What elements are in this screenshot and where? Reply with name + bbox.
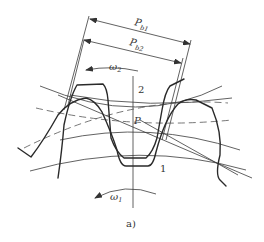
label-gear-1: 1 [160, 163, 166, 174]
gear-mesh-diagram: Pb1 Pb2 ω2 2 P 1 ω1 a) [0, 0, 264, 242]
extension-line-right-outer [166, 40, 191, 140]
label-gear-2: 2 [138, 84, 144, 95]
figure-caption: a) [126, 218, 136, 229]
label-pb1: Pb1 [132, 16, 151, 33]
pitch-circle-gear1 [24, 102, 228, 148]
omega1-arrow [95, 189, 156, 198]
label-omega1: ω1 [110, 191, 122, 204]
label-omega2: ω2 [109, 61, 121, 74]
line-of-action [58, 95, 252, 178]
extension-line-right-inner [162, 58, 183, 140]
label-pitch-point: P [133, 115, 141, 126]
line-of-action-2 [140, 120, 238, 175]
